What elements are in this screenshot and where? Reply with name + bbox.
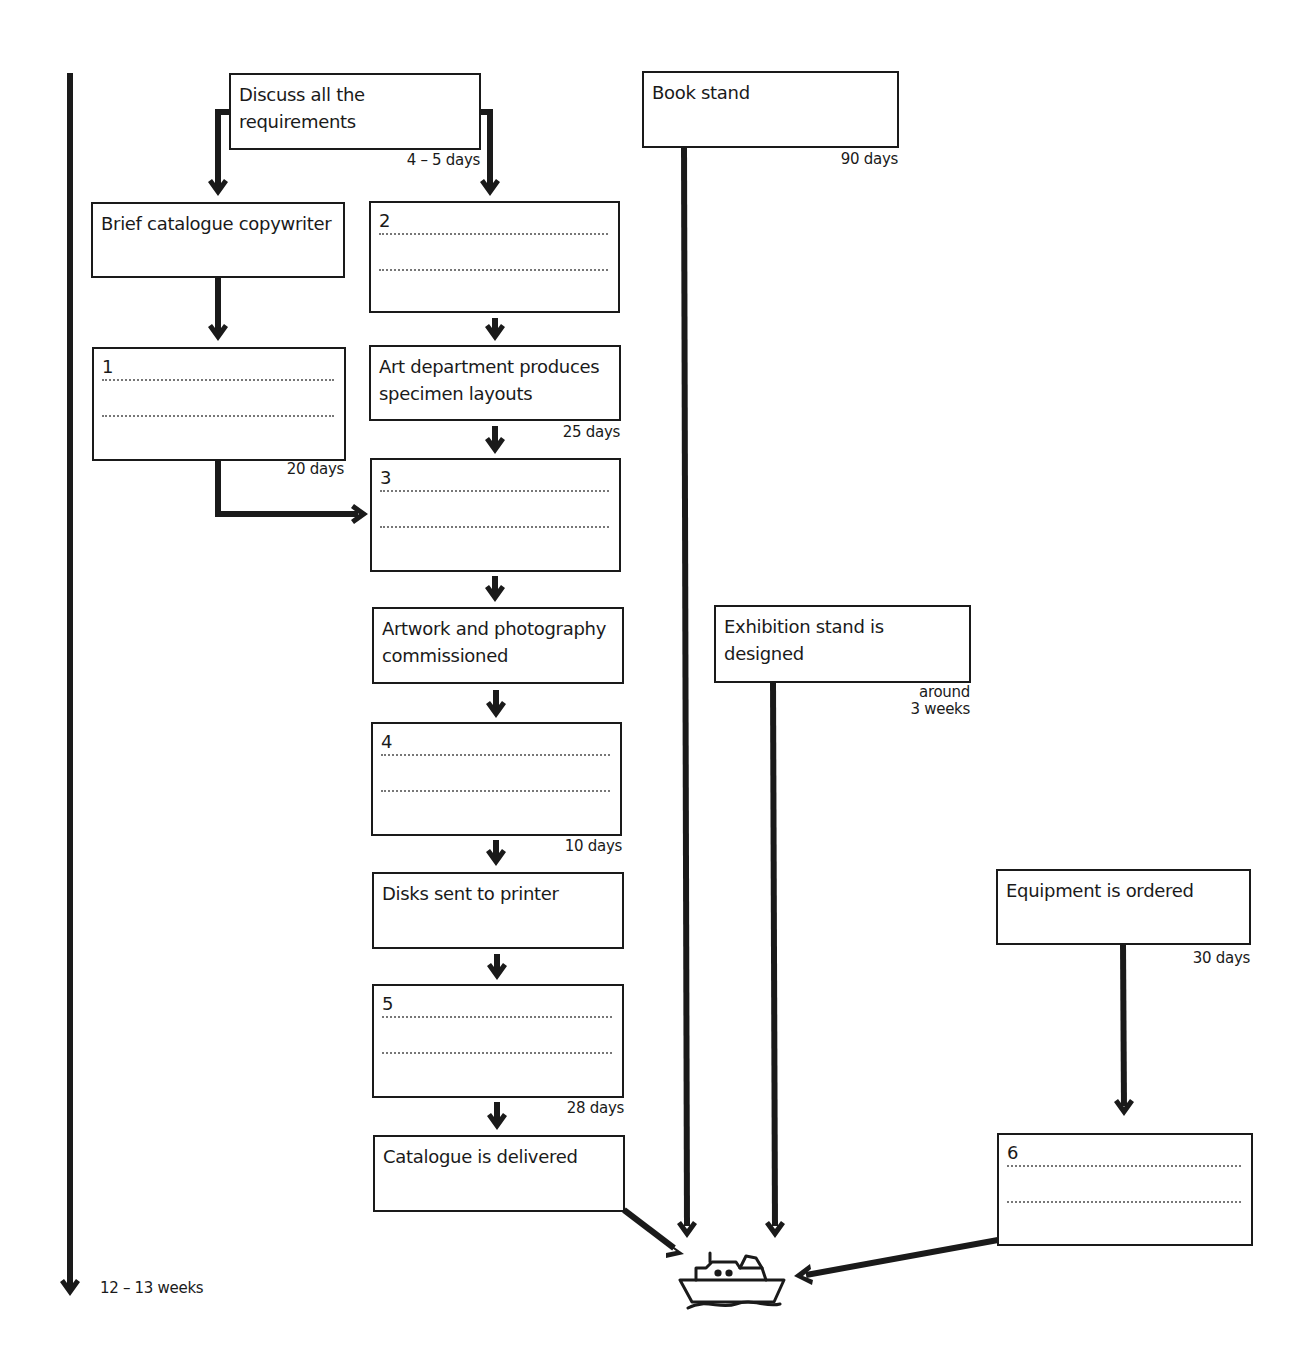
box-equipment-ordered: Equipment is ordered <box>996 869 1251 945</box>
box-label: Disks sent to printer <box>382 883 559 904</box>
box-blank-3[interactable]: 3 <box>370 458 621 572</box>
box-label: Exhibition stand is designed <box>724 616 884 664</box>
blank-number: 5 <box>382 994 614 1014</box>
box-blank-5[interactable]: 5 <box>372 984 624 1098</box>
box-label: Catalogue is delivered <box>383 1146 578 1167</box>
box-blank-6[interactable]: 6 <box>997 1133 1253 1246</box>
blank-number: 4 <box>381 732 612 752</box>
box-brief-copywriter: Brief catalogue copywriter <box>91 202 345 278</box>
box-disks-sent: Disks sent to printer <box>372 872 624 949</box>
flowchart-canvas: Discuss all the requirements 4 – 5 days … <box>0 0 1311 1364</box>
box-discuss-requirements: Discuss all the requirements <box>229 73 481 150</box>
timeline-label: 12 – 13 weeks <box>100 1279 203 1297</box>
box-label: Book stand <box>652 82 750 103</box>
blank-number: 3 <box>380 468 611 488</box>
ship-icon <box>676 1250 788 1312</box>
box-label: Art department produces specimen layouts <box>379 356 599 404</box>
answer-line-1[interactable] <box>381 754 610 756</box>
box-label: Equipment is ordered <box>1006 880 1194 901</box>
box-blank-4[interactable]: 4 <box>371 722 622 836</box>
box-label: Artwork and photography commissioned <box>382 618 606 666</box>
box-art-department: Art department produces specimen layouts <box>369 345 621 421</box>
blank-number: 2 <box>379 211 610 231</box>
box-book-stand: Book stand <box>642 71 899 148</box>
answer-line-2[interactable] <box>381 790 610 792</box>
duration-book-stand: 90 days <box>798 151 898 168</box>
box-blank-1[interactable]: 1 <box>92 347 346 461</box>
answer-line-2[interactable] <box>379 269 608 271</box>
duration-exhibition: around 3 weeks <box>870 684 970 718</box>
box-blank-2[interactable]: 2 <box>369 201 620 313</box>
duration-discuss: 4 – 5 days <box>380 152 480 169</box>
box-exhibition-stand: Exhibition stand is designed <box>714 605 971 683</box>
box-artwork-photography: Artwork and photography commissioned <box>372 607 624 684</box>
answer-line-1[interactable] <box>380 490 609 492</box>
duration-equipment: 30 days <box>1150 950 1250 967</box>
blank-number: 1 <box>102 357 336 377</box>
answer-line-1[interactable] <box>379 233 608 235</box>
answer-line-2[interactable] <box>102 415 334 417</box>
box-label: Discuss all the requirements <box>239 84 365 132</box>
duration-blank-4: 10 days <box>522 838 622 855</box>
answer-line-2[interactable] <box>1007 1201 1241 1203</box>
duration-art: 25 days <box>520 424 620 441</box>
duration-blank-1: 20 days <box>244 461 344 478</box>
answer-line-1[interactable] <box>382 1016 612 1018</box>
duration-line-2: 3 weeks <box>870 701 970 718</box>
box-catalogue-delivered: Catalogue is delivered <box>373 1135 625 1212</box>
blank-number: 6 <box>1007 1143 1243 1163</box>
answer-line-2[interactable] <box>380 526 609 528</box>
answer-line-2[interactable] <box>382 1052 612 1054</box>
answer-line-1[interactable] <box>1007 1165 1241 1167</box>
answer-line-1[interactable] <box>102 379 334 381</box>
box-label: Brief catalogue copywriter <box>101 213 331 234</box>
duration-blank-5: 28 days <box>524 1100 624 1117</box>
duration-line-1: around <box>870 684 970 701</box>
